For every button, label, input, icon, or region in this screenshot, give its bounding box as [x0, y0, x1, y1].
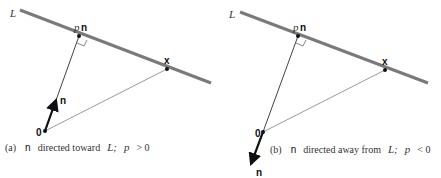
right-angle-mark — [296, 40, 306, 46]
foot-label-n: n — [81, 22, 87, 33]
segment-0-to-pn — [263, 36, 298, 132]
caption-a: (a) n directed toward L; p > 0 — [5, 137, 150, 154]
line-L-label: L — [9, 7, 16, 19]
point-pn — [77, 34, 81, 38]
point-x-label: x — [382, 56, 388, 67]
point-x-label: x — [164, 55, 170, 66]
foot-label-n: n — [300, 22, 306, 33]
panel-a: L p n x 0 n (a) n directed toward L; p >… — [5, 7, 211, 154]
segment-0-to-x — [263, 70, 385, 132]
right-angle-mark — [77, 40, 87, 46]
foot-label-p: p — [73, 21, 80, 33]
normal-label: n — [256, 167, 262, 178]
foot-label-p: p — [292, 21, 299, 33]
point-x — [165, 67, 169, 71]
origin-label: 0 — [36, 127, 42, 138]
origin-point — [261, 130, 265, 134]
line-L-label: L — [228, 8, 235, 20]
origin-label: 0 — [255, 128, 261, 139]
diagram-canvas: L p n x 0 n (a) n directed toward L; p >… — [0, 0, 441, 178]
normal-label: n — [60, 95, 66, 106]
point-pn — [296, 34, 300, 38]
origin-point — [43, 129, 47, 133]
panel-b: L p n x 0 n (b) n directed away from L; … — [228, 8, 430, 178]
point-x — [383, 68, 387, 72]
line-L — [240, 12, 428, 83]
line-L — [20, 10, 211, 83]
caption-b: (b) n directed away from L; p < 0 — [270, 139, 430, 156]
